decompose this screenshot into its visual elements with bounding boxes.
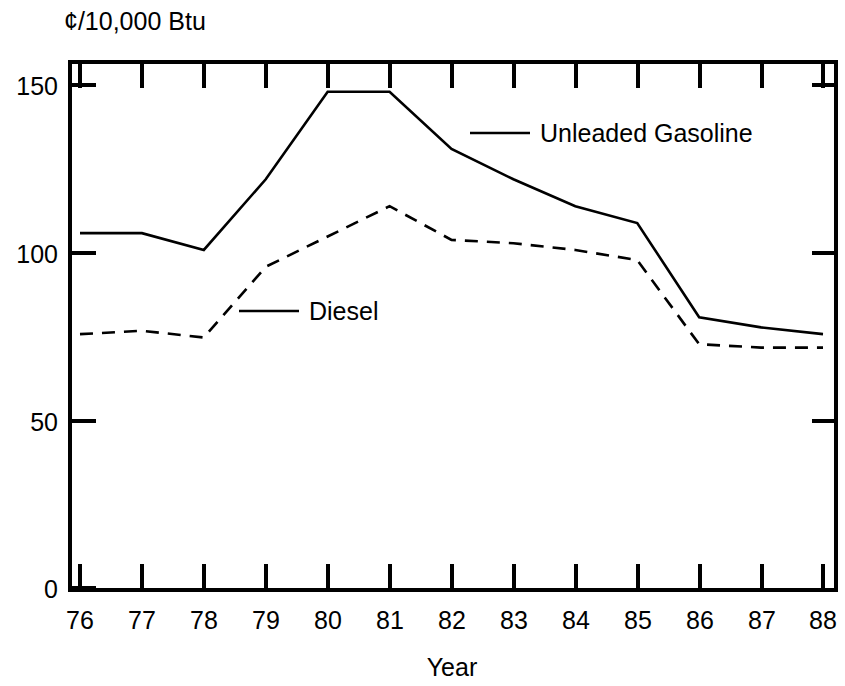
line-chart: ¢/10,000 Btu 150 100 50 0 76 77 78 79 80…	[0, 0, 845, 686]
x-axis-ticks	[80, 564, 823, 590]
x-tick-label-79: 79	[252, 606, 280, 634]
x-tick-label-87: 87	[748, 606, 776, 634]
y-axis-ticks-right	[812, 85, 836, 421]
legend-label-diesel: Diesel	[309, 297, 378, 325]
x-tick-label-76: 76	[66, 606, 94, 634]
x-tick-label-83: 83	[500, 606, 528, 634]
x-tick-label-77: 77	[128, 606, 156, 634]
x-tick-label-86: 86	[686, 606, 714, 634]
x-tick-label-80: 80	[314, 606, 342, 634]
legend-unleaded-gasoline: Unleaded Gasoline	[470, 119, 753, 147]
y-axis-ticks	[70, 85, 96, 588]
x-tick-labels: 76 77 78 79 80 81 82 83 84 85 86 87 88	[66, 606, 837, 634]
y-tick-labels: 150 100 50 0	[16, 72, 58, 603]
y-tick-label-100: 100	[16, 240, 58, 268]
x-tick-label-85: 85	[624, 606, 652, 634]
top-axis-ticks	[80, 62, 823, 88]
x-tick-label-82: 82	[438, 606, 466, 634]
x-tick-label-81: 81	[376, 606, 404, 634]
x-tick-label-88: 88	[809, 606, 837, 634]
x-tick-label-84: 84	[562, 606, 590, 634]
y-tick-label-150: 150	[16, 72, 58, 100]
x-tick-label-78: 78	[190, 606, 218, 634]
y-tick-label-0: 0	[44, 575, 58, 603]
series-line-diesel	[80, 206, 823, 347]
y-tick-label-50: 50	[30, 408, 58, 436]
chart-container: ¢/10,000 Btu 150 100 50 0 76 77 78 79 80…	[0, 0, 845, 686]
x-axis-title: Year	[427, 653, 478, 681]
legend-label-unleaded-gasoline: Unleaded Gasoline	[540, 119, 753, 147]
y-axis-unit-label: ¢/10,000 Btu	[64, 7, 206, 35]
legend-diesel: Diesel	[239, 297, 378, 325]
